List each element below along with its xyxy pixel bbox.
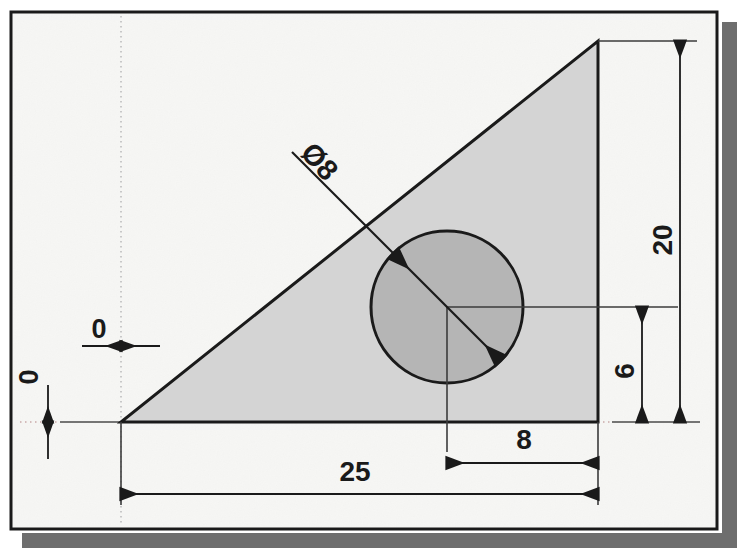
technical-drawing: 20 6 8 25 0 0 Ø8 — [0, 0, 737, 557]
dimension-6-label: 6 — [609, 363, 640, 379]
dimension-8-label: 8 — [516, 424, 532, 455]
dimension-25-label: 25 — [339, 456, 370, 487]
drawing-canvas: 20 6 8 25 0 0 Ø8 — [0, 0, 737, 557]
dimension-zero-x-label: 0 — [91, 314, 106, 344]
dimension-zero-y-label: 0 — [14, 369, 44, 384]
dimension-20-label: 20 — [647, 224, 678, 255]
